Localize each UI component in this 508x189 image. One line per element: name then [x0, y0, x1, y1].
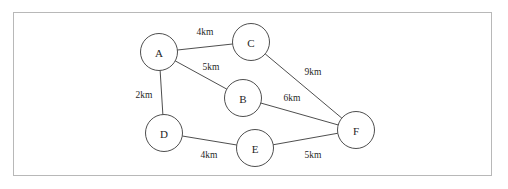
- graph-canvas: ABCDEF 4km5km2km9km6km4km5km: [0, 0, 508, 189]
- node-label-c: C: [247, 37, 254, 49]
- node-label-f: F: [353, 125, 359, 137]
- edge-weight-label-e-f: 5km: [305, 150, 323, 160]
- node-label-b: B: [239, 93, 246, 105]
- graph-diagram: ABCDEF 4km5km2km9km6km4km5km: [0, 0, 508, 189]
- node-b[interactable]: B: [225, 80, 262, 117]
- edge-a-d: [160, 70, 163, 114]
- edge-e-f: [273, 133, 338, 145]
- edge-weight-label-a-b: 5km: [203, 62, 221, 72]
- edge-weight-label-b-f: 6km: [284, 93, 302, 103]
- node-e[interactable]: E: [237, 130, 274, 167]
- node-a[interactable]: A: [141, 34, 178, 71]
- node-label-a: A: [155, 47, 163, 59]
- edge-d-e: [182, 136, 237, 145]
- node-label-e: E: [252, 143, 259, 155]
- edge-b-f: [261, 103, 338, 125]
- node-label-d: D: [160, 128, 168, 140]
- node-c[interactable]: C: [233, 24, 270, 61]
- nodes-layer: ABCDEF: [141, 24, 375, 167]
- edge-weight-label-c-f: 9km: [305, 67, 323, 77]
- edge-weight-label-a-c: 4km: [197, 27, 215, 37]
- edge-weight-label-a-d: 2km: [136, 90, 154, 100]
- edge-weight-label-d-e: 4km: [201, 150, 219, 160]
- edge-c-f: [265, 54, 342, 118]
- node-f[interactable]: F: [338, 112, 375, 149]
- node-d[interactable]: D: [146, 115, 183, 152]
- edge-a-c: [177, 44, 232, 50]
